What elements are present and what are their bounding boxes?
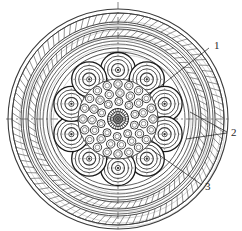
outer-armour-braid-rung	[38, 50, 41, 60]
outer-armour-braid-rung	[182, 192, 183, 203]
inner-armour-braid-rung	[201, 113, 208, 119]
inner-armour-braid-rung	[179, 175, 180, 184]
strand-r2-9	[131, 110, 139, 118]
outer-armour-braid-rung	[12, 127, 22, 132]
inner-armour-braid-rung	[136, 33, 143, 38]
inner-armour-braid-rung	[28, 126, 36, 131]
strand-r0-12	[85, 94, 93, 102]
outer-armour-braid-rung	[177, 39, 187, 42]
inner-armour-braid-rung	[200, 107, 208, 112]
outer-armour-braid-rung	[99, 14, 103, 24]
outer-armour-braid-rung	[202, 71, 213, 72]
strand-r0-15	[114, 80, 122, 88]
inner-armour-braid-rung	[130, 31, 137, 37]
strand-r1-14	[139, 109, 147, 117]
outer-armour-braid-rung	[166, 203, 167, 214]
outer-armour-braid-rung	[167, 30, 177, 35]
stranded-core-bundle	[78, 79, 158, 159]
inner-armour-braid-rung	[32, 93, 37, 100]
outer-armour-braid-rung	[112, 13, 118, 22]
outer-armour-braid-rung	[48, 40, 50, 51]
strand-r2-4	[97, 120, 105, 128]
inner-armour-braid-rung	[40, 165, 49, 166]
outer-armour-braid-rung	[70, 24, 71, 35]
outer-armour-braid-rung	[91, 214, 99, 221]
inner-armour-braid-rung	[124, 30, 131, 36]
outer-armour-braid-rung	[126, 215, 131, 225]
strand-r2-7	[115, 98, 123, 106]
strand-r1-0	[139, 119, 147, 127]
outer-armour-braid-rung	[53, 35, 54, 46]
outer-armour-braid-rung	[75, 21, 77, 32]
strand-r2-6	[104, 100, 112, 108]
outer-armour-braid-rung	[12, 120, 21, 126]
inner-armour-braid-rung	[34, 87, 39, 95]
outer-armour-braid-rung	[15, 92, 22, 100]
strand-r0-11	[81, 104, 89, 112]
inner-armour-braid-rung	[174, 57, 183, 58]
outer-armour-braid-rung	[39, 188, 50, 190]
outer-armour-braid-rung	[191, 183, 194, 194]
inner-armour-braid-rung	[71, 41, 72, 50]
outer-armour-braid-rung	[214, 106, 224, 111]
inner-armour-braid-rung	[37, 81, 41, 89]
strand-r0-13	[93, 86, 101, 94]
strand-r2-0	[130, 121, 138, 129]
outer-armour-braid-rung	[43, 45, 46, 56]
inner-armour-braid-rung	[165, 48, 174, 50]
outer-armour-braid-rung	[23, 73, 29, 82]
strand-r0-17	[134, 86, 142, 94]
inner-armour-braid-rung	[52, 58, 54, 67]
strand-r1-3	[117, 141, 125, 149]
inner-armour-braid-rung	[187, 72, 196, 73]
outer-armour-braid-rung	[18, 154, 29, 156]
strand-r1-4	[106, 140, 114, 148]
outer-armour-braid-rung	[98, 215, 105, 223]
outer-armour-braid-rung	[26, 67, 31, 76]
outer-armour-braid-rung	[105, 13, 110, 23]
inner-armour-braid-rung	[62, 188, 71, 190]
outer-armour-braid-rung	[93, 15, 97, 25]
callout-label-1: 1	[214, 39, 220, 51]
strand-r0-4	[125, 148, 133, 156]
outer-armour-braid-rung	[155, 24, 164, 30]
outer-armour-braid-rung	[205, 76, 216, 78]
outer-armour-braid-rung	[215, 113, 224, 119]
strand-r1-9	[96, 96, 104, 104]
cable-cross-section-diagram: 1 2 3	[0, 0, 242, 231]
strand-r1-8	[90, 105, 98, 113]
inner-armour-braid-rung	[142, 35, 150, 40]
figure-canvas: 1 2 3	[0, 0, 242, 231]
inner-armour-braid-rung	[74, 194, 82, 197]
callout-label-2: 2	[231, 126, 237, 138]
inner-armour-braid-rung	[170, 53, 179, 55]
inner-armour-braid-rung	[56, 53, 57, 62]
outer-armour-braid-rung	[215, 119, 224, 125]
outer-armour-braid-rung	[87, 17, 90, 27]
outer-armour-braid-rung	[13, 134, 23, 138]
inner-armour-braid-rung	[193, 155, 196, 163]
strand-r2-5	[98, 109, 106, 117]
strand-r0-5	[114, 150, 122, 158]
inner-armour-braid-rung	[30, 100, 36, 107]
outer-armour-braid-rung	[81, 19, 83, 30]
outer-armour-braid-rung	[33, 55, 37, 65]
outer-armour-braid-rung	[187, 49, 198, 51]
strand-r2-8	[125, 101, 133, 109]
outer-armour-braid-rung	[20, 79, 26, 88]
strand-r1-11	[116, 89, 124, 97]
inner-armour-braid-rung	[197, 143, 202, 151]
strand-r0-19	[147, 104, 155, 112]
strand-r0-9	[81, 126, 89, 134]
strand-r0-6	[103, 148, 111, 156]
inner-armour-braid-rung	[195, 149, 199, 157]
inner-armour-braid-rung	[164, 188, 165, 197]
strand-r0-0	[149, 115, 157, 123]
strand-r2-1	[124, 130, 132, 138]
strand-r0-3	[134, 143, 142, 151]
strand-r0-10	[79, 115, 87, 123]
outer-armour-braid-rung	[17, 86, 24, 94]
inner-armour-braid-rung	[28, 113, 35, 119]
outer-armour-braid-rung	[187, 188, 189, 199]
strand-r1-6	[90, 126, 98, 134]
